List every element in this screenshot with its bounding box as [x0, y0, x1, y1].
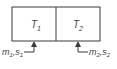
tank-t2: T2: [73, 19, 83, 32]
svg-text:T1: T1: [31, 19, 41, 32]
input-1-label: m1,s1: [2, 47, 23, 58]
tank-t2-subscript: 2: [78, 25, 83, 32]
tank-container: [12, 7, 100, 41]
tank-t1-subscript: 1: [37, 25, 41, 32]
svg-text:T2: T2: [73, 19, 83, 32]
arrow-up-icon: [24, 44, 34, 52]
input-2-label: m2,s2: [89, 47, 111, 58]
tank-diagram: T1 T2 m1,s1 m2,s2: [0, 0, 117, 69]
tank-t1: T1: [31, 19, 41, 32]
input-arrow-2: [78, 44, 88, 52]
input-arrow-1: [24, 44, 34, 52]
arrow-up-icon: [78, 44, 88, 52]
